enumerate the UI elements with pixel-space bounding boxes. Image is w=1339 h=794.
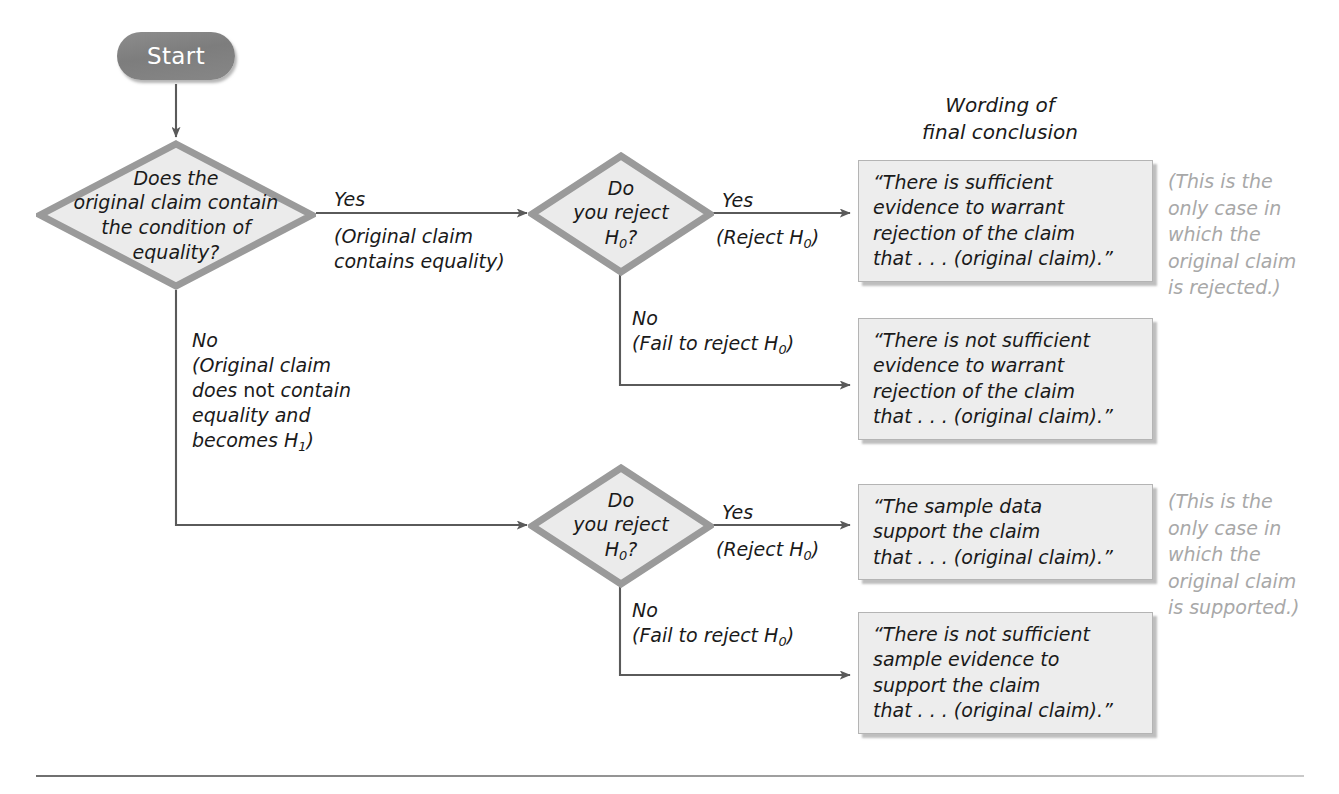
start-label: Start bbox=[147, 43, 205, 69]
side-note-1-line-4: original claim bbox=[1168, 248, 1296, 275]
caption-line-1: Wording of bbox=[885, 92, 1115, 119]
side-note-2-line-1: (This is the bbox=[1168, 488, 1299, 515]
conclusion-box-1[interactable]: “There is sufficient evidence to warrant… bbox=[858, 160, 1153, 282]
edge-label-no-equality: No (Original claim does not contain equa… bbox=[192, 328, 351, 455]
conclusion-1-line-2: evidence to warrant bbox=[873, 195, 1140, 220]
edge-sublabel-yes-reject-top: (Reject H0) bbox=[716, 225, 819, 252]
edge-yes-equality-sub-2: contains equality) bbox=[334, 249, 505, 274]
conclusion-3-line-2: support the claim bbox=[873, 519, 1140, 544]
edge-no-equality-sub-3: equality and bbox=[192, 403, 351, 428]
edge-no-reject-top-sub-1: (Fail to reject H0) bbox=[632, 331, 794, 358]
side-note-2-line-3: which the bbox=[1168, 541, 1299, 568]
decision-node-reject-top[interactable]: Do you reject H0? bbox=[528, 152, 714, 276]
edge-yes-reject-bottom-sub-1: (Reject H0) bbox=[716, 537, 819, 564]
flowchart-canvas: Wording of final conclusion Start Does t… bbox=[0, 0, 1339, 794]
conclusion-1-line-4: that . . . (original claim).” bbox=[873, 246, 1140, 271]
edge-label-no-reject-top: No (Fail to reject H0) bbox=[632, 306, 794, 358]
conclusion-4-line-3: support the claim bbox=[873, 673, 1140, 698]
edge-no-reject-bottom-sub-1: (Fail to reject H0) bbox=[632, 623, 794, 650]
conclusion-box-3[interactable]: “The sample data support the claim that … bbox=[858, 484, 1153, 580]
page-divider-rule bbox=[36, 775, 1304, 777]
edge-yes-reject-top-label: Yes bbox=[722, 188, 753, 213]
side-note-rejected: (This is the only case in which the orig… bbox=[1168, 168, 1296, 301]
conclusion-3-line-3: that . . . (original claim).” bbox=[873, 545, 1140, 570]
edge-yes-reject-bottom-label: Yes bbox=[722, 500, 753, 525]
caption-line-2: final conclusion bbox=[885, 119, 1115, 146]
edge-yes-reject-top-sub-1: (Reject H0) bbox=[716, 225, 819, 252]
conclusion-4-line-1: “There is not sufficient bbox=[873, 622, 1140, 647]
edge-no-reject-top-label: No bbox=[632, 306, 794, 331]
chart-caption: Wording of final conclusion bbox=[885, 92, 1115, 146]
conclusion-2-line-2: evidence to warrant bbox=[873, 353, 1140, 378]
conclusion-2-line-4: that . . . (original claim).” bbox=[873, 404, 1140, 429]
edge-no-equality-sub-4: becomes H1) bbox=[192, 428, 351, 455]
start-terminator[interactable]: Start bbox=[117, 32, 235, 80]
edge-yes-equality-label: Yes bbox=[334, 187, 365, 212]
side-note-2-line-2: only case in bbox=[1168, 515, 1299, 542]
conclusion-box-4[interactable]: “There is not sufficient sample evidence… bbox=[858, 612, 1153, 734]
conclusion-2-line-3: rejection of the claim bbox=[873, 379, 1140, 404]
conclusion-3-line-1: “The sample data bbox=[873, 494, 1140, 519]
conclusion-box-2[interactable]: “There is not sufficient evidence to war… bbox=[858, 318, 1153, 440]
edge-sublabel-yes-equality: (Original claim contains equality) bbox=[334, 224, 505, 274]
edge-sublabel-yes-reject-bottom: (Reject H0) bbox=[716, 537, 819, 564]
conclusion-2-line-1: “There is not sufficient bbox=[873, 328, 1140, 353]
edge-label-yes-reject-top: Yes bbox=[722, 188, 753, 213]
edge-label-yes-equality: Yes bbox=[334, 187, 365, 212]
conclusion-1-line-3: rejection of the claim bbox=[873, 221, 1140, 246]
side-note-1-line-3: which the bbox=[1168, 221, 1296, 248]
conclusion-4-line-2: sample evidence to bbox=[873, 647, 1140, 672]
side-note-2-line-4: original claim bbox=[1168, 568, 1299, 595]
conclusion-1-line-1: “There is sufficient bbox=[873, 170, 1140, 195]
side-note-2-line-5: is supported.) bbox=[1168, 594, 1299, 621]
side-note-1-line-1: (This is the bbox=[1168, 168, 1296, 195]
side-note-supported: (This is the only case in which the orig… bbox=[1168, 488, 1299, 621]
decision-node-reject-bottom[interactable]: Do you reject H0? bbox=[528, 464, 714, 588]
decision-node-equality[interactable]: Does the original claim contain the cond… bbox=[36, 140, 316, 290]
conclusion-4-line-4: that . . . (original claim).” bbox=[873, 698, 1140, 723]
side-note-1-line-5: is rejected.) bbox=[1168, 274, 1296, 301]
edge-no-equality-sub-1: (Original claim bbox=[192, 353, 351, 378]
side-note-1-line-2: only case in bbox=[1168, 195, 1296, 222]
edge-yes-equality-sub-1: (Original claim bbox=[334, 224, 505, 249]
edge-no-reject-bottom-label: No bbox=[632, 598, 794, 623]
edge-label-yes-reject-bottom: Yes bbox=[722, 500, 753, 525]
edge-no-equality-sub-2: does not contain bbox=[192, 378, 351, 403]
edge-no-equality-label: No bbox=[192, 328, 351, 353]
edge-label-no-reject-bottom: No (Fail to reject H0) bbox=[632, 598, 794, 650]
